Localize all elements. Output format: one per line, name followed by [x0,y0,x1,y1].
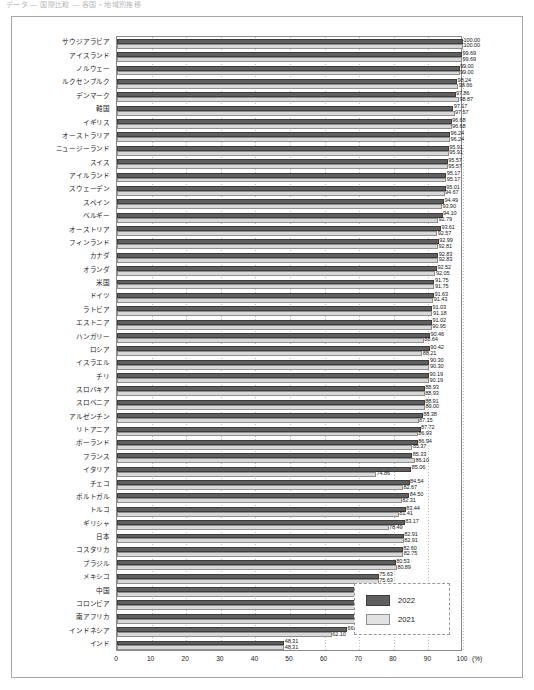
bar-2021[interactable] [117,111,455,116]
value-label-2021: 92.81 [439,244,453,250]
bar-2021[interactable] [117,151,449,156]
value-label-2021: 62.10 [332,632,346,638]
chart-page: データ ― 国際比較 ― 各国・地域別推移 サウジアラビアアイスランドノルウェー… [0,0,534,690]
bar-2021[interactable] [117,525,389,530]
bar-2021[interactable] [117,204,442,209]
category-label: スロベニア [76,400,110,407]
legend-label-2021: 2021 [398,615,415,624]
value-label-2021: 90.19 [430,378,444,384]
bar-2021[interactable] [117,298,433,303]
bar-2021[interactable] [117,97,459,102]
category-label: スペイン [83,200,110,207]
category-label: 南アフリカ [76,614,110,621]
bar-2021[interactable] [117,418,419,423]
chart-frame: サウジアラビアアイスランドノルウェールクセンブルクデンマーク韓国イギリスオースト… [11,16,523,678]
bar-row [117,253,461,263]
bar-2021[interactable] [117,325,432,330]
bar-row [117,453,461,463]
bar-2021[interactable] [117,538,404,543]
bar-row [117,92,461,102]
value-label-2021: 92.79 [439,217,453,223]
bar-2021[interactable] [117,405,425,410]
value-label-2021: 74.86 [377,471,391,477]
bar-row [117,186,461,196]
category-label: イタリア [83,467,110,474]
category-label: エストニア [76,320,110,327]
value-label-2021: 95.17 [447,177,461,183]
bar-2021[interactable] [117,378,429,383]
bar-2021[interactable] [117,432,418,437]
bar-row [117,119,461,129]
bar-2021[interactable] [117,164,448,169]
bar-2021[interactable] [117,605,370,610]
value-label-2021: 98.87 [460,97,474,103]
bar-2021[interactable] [117,472,376,477]
bar-2021[interactable] [117,338,424,343]
bar-2021[interactable] [117,565,397,570]
category-label: フィンランド [69,240,110,247]
bar-2021[interactable] [117,258,438,263]
value-label-2021: 90.30 [430,364,444,370]
bar-row [117,427,461,437]
bar-row [117,346,461,356]
bar-2021[interactable] [117,231,437,236]
bar-2021[interactable] [117,178,446,183]
category-label: ハンガリー [76,334,110,341]
category-label: カナダ [90,253,110,260]
bar-2021[interactable] [117,244,438,249]
category-label: スイス [90,160,110,167]
bar-row [117,440,461,450]
bar-row [117,239,461,249]
bar-2021[interactable] [117,271,435,276]
chart-legend: 2022 2021 [354,583,450,635]
bar-2021[interactable] [117,619,367,624]
bar-2021[interactable] [117,552,403,557]
bar-2021[interactable] [117,512,399,517]
value-label-2021: 89.00 [425,404,439,410]
bar-row [117,79,461,89]
bar-2021[interactable] [117,498,402,503]
bar-row [117,293,461,303]
category-label: デンマーク [76,93,110,100]
bar-2021[interactable] [117,191,445,196]
category-label: トルコ [90,507,110,514]
value-label-2021: 100.00 [464,43,481,49]
value-label-2021: 97.57 [455,110,469,116]
value-label-2022: 83.17 [405,519,419,525]
bar-2021[interactable] [117,445,412,450]
bar-2021[interactable] [117,137,450,142]
bar-2021[interactable] [117,645,284,650]
category-label: オーストリア [69,227,110,234]
bar-2021[interactable] [117,44,463,49]
bar-2021[interactable] [117,57,462,62]
value-label-2021: 81.41 [399,511,413,517]
bar-2021[interactable] [117,632,332,637]
bar-2021[interactable] [117,458,415,463]
bar-2021[interactable] [117,84,458,89]
bar-2021[interactable] [117,218,438,223]
bar-row [117,266,461,276]
value-label-2021: 88.93 [425,391,439,397]
bar-2021[interactable] [117,485,403,490]
axis-tick-label: 90 [424,655,431,662]
bar-2021[interactable] [117,391,425,396]
bar-row [117,159,461,169]
bar-row [117,320,461,330]
bar-2021[interactable] [117,311,432,316]
bar-row [117,132,461,142]
bar-2021[interactable] [117,284,434,289]
category-label: リトアニア [76,427,110,434]
bar-2021[interactable] [117,71,460,76]
bar-row [117,106,461,116]
bar-2021[interactable] [117,579,379,584]
category-label: スロバキア [76,387,110,394]
category-label: 米国 [96,280,110,287]
cropped-header-text: データ ― 国際比較 ― 各国・地域別推移 [6,0,141,9]
bar-2021[interactable] [117,365,429,370]
value-label-2021: 90.95 [432,324,446,330]
axis-tick-label: 30 [216,655,223,662]
bar-2021[interactable] [117,124,452,129]
bar-2021[interactable] [117,351,422,356]
bar-2021[interactable] [117,592,370,597]
value-label-2021: 92.05 [436,271,450,277]
